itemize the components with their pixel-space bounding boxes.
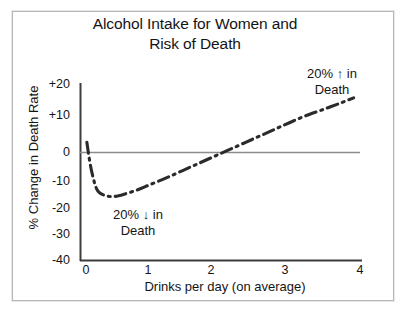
y-tick-label-20: +20	[36, 77, 70, 91]
x-tick-label-3: 3	[273, 263, 297, 277]
annotation-increase-line-1: 20% ↑ in	[292, 66, 372, 82]
annotation-decrease-line-2: Death	[88, 223, 188, 239]
annotation-decrease-in-death: 20% ↓ in Death	[88, 207, 188, 239]
annotation-increase-line-2: Death	[292, 82, 372, 98]
data-series-line	[87, 98, 354, 197]
x-tick-label-1: 1	[136, 263, 160, 277]
y-tick-label-neg30: -30	[36, 227, 70, 241]
x-axis-title: Drinks per day (on average)	[70, 279, 380, 294]
x-tick-label-4: 4	[348, 263, 372, 277]
annotation-increase-in-death: 20% ↑ in Death	[292, 66, 372, 98]
y-tick-label-0: 0	[36, 145, 70, 159]
y-tick-label-neg10: -10	[36, 174, 70, 188]
y-tick-label-neg40: -40	[36, 253, 70, 267]
annotation-decrease-line-1: 20% ↓ in	[88, 207, 188, 223]
y-axis-title: % Change in Death Rate	[26, 63, 41, 253]
y-tick-label-neg20: -20	[36, 201, 70, 215]
y-tick-label-10: +10	[36, 108, 70, 122]
chart-figure: Alcohol Intake for Women and Risk of Dea…	[0, 0, 410, 317]
x-tick-label-2: 2	[199, 263, 223, 277]
x-tick-label-0: 0	[74, 263, 98, 277]
